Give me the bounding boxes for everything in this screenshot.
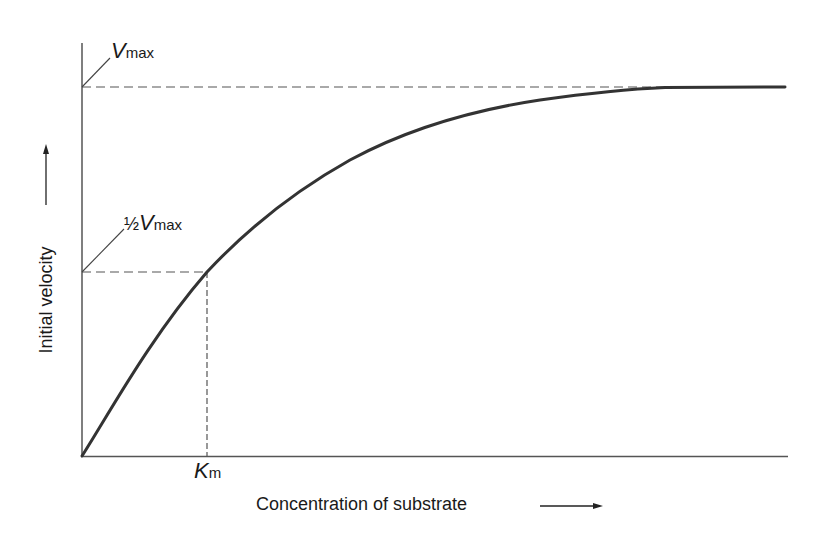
vmax-label: Vmax [111, 38, 154, 64]
chart-canvas [0, 0, 822, 533]
y-axis-title: Initial velocity [36, 246, 57, 353]
km-label: Km [194, 458, 221, 484]
half-vmax-leader-line [82, 229, 124, 272]
y-axis-arrow-icon [43, 144, 49, 154]
vmax-leader-line [82, 58, 110, 87]
x-axis-title: Concentration of substrate [256, 494, 467, 515]
half-vmax-label: ½Vmax [124, 210, 182, 236]
x-axis-arrow-icon [593, 503, 603, 509]
